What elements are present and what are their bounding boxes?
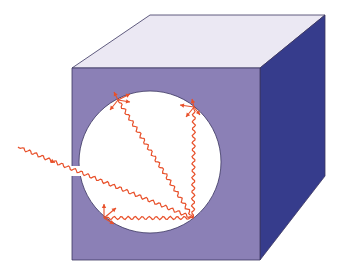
blackbody-cavity-diagram: Blackbody cavity: radiation entering a s… (0, 0, 339, 275)
spherical-cavity (79, 91, 221, 233)
diagram-canvas (0, 0, 339, 275)
